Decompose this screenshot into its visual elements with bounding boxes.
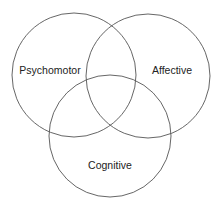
cognitive-circle bbox=[49, 75, 171, 197]
affective-circle bbox=[86, 14, 210, 138]
psychomotor-label: Psychomotor bbox=[19, 64, 81, 76]
affective-label: Affective bbox=[152, 64, 192, 76]
venn-diagram: Psychomotor Affective Cognitive bbox=[0, 0, 216, 202]
cognitive-label: Cognitive bbox=[88, 159, 132, 171]
